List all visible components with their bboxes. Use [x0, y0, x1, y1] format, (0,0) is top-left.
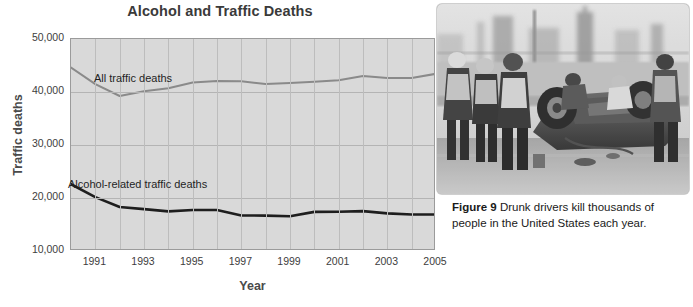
series-annotation-alcohol-related-traffic-deaths: Alcohol-related traffic deaths [68, 178, 207, 190]
plot-area [70, 38, 435, 250]
gridline-vertical [339, 39, 340, 249]
gridline-vertical [387, 39, 388, 249]
crash-scene-photo [437, 4, 689, 194]
alcohol-traffic-deaths-chart: Alcohol and Traffic Deaths Traffic death… [0, 0, 440, 307]
crash-scene-photo-image [437, 4, 689, 194]
gridline-vertical [290, 39, 291, 249]
figure-caption: Figure 9 Drunk drivers kill thousands of… [452, 200, 684, 231]
gridline-vertical [95, 39, 96, 249]
x-axis-tick: 2003 [366, 255, 406, 267]
gridline-horizontal [71, 145, 434, 146]
x-axis-tick: 1999 [269, 255, 309, 267]
x-axis-tick: 1997 [220, 255, 260, 267]
x-axis-tick: 2001 [318, 255, 358, 267]
gridline-vertical [241, 39, 242, 249]
x-axis-tick: 1991 [74, 255, 114, 267]
gridline-vertical [363, 39, 364, 249]
x-axis-tick: 1993 [123, 255, 163, 267]
series-annotation-all-traffic-deaths: All traffic deaths [94, 72, 172, 84]
gridline-vertical [412, 39, 413, 249]
gridline-horizontal [71, 92, 434, 93]
gridline-vertical [193, 39, 194, 249]
x-axis-tick: 2005 [415, 255, 455, 267]
gridline-vertical [266, 39, 267, 249]
gridline-vertical [144, 39, 145, 249]
gridline-vertical [314, 39, 315, 249]
gridline-horizontal [71, 198, 434, 199]
x-axis-tick: 1995 [172, 255, 212, 267]
gridline-vertical [217, 39, 218, 249]
figure-caption-label: Figure 9 [452, 201, 497, 213]
figure-page: Alcohol and Traffic Deaths Traffic death… [0, 0, 693, 307]
gridline-vertical [168, 39, 169, 249]
gridline-vertical [120, 39, 121, 249]
